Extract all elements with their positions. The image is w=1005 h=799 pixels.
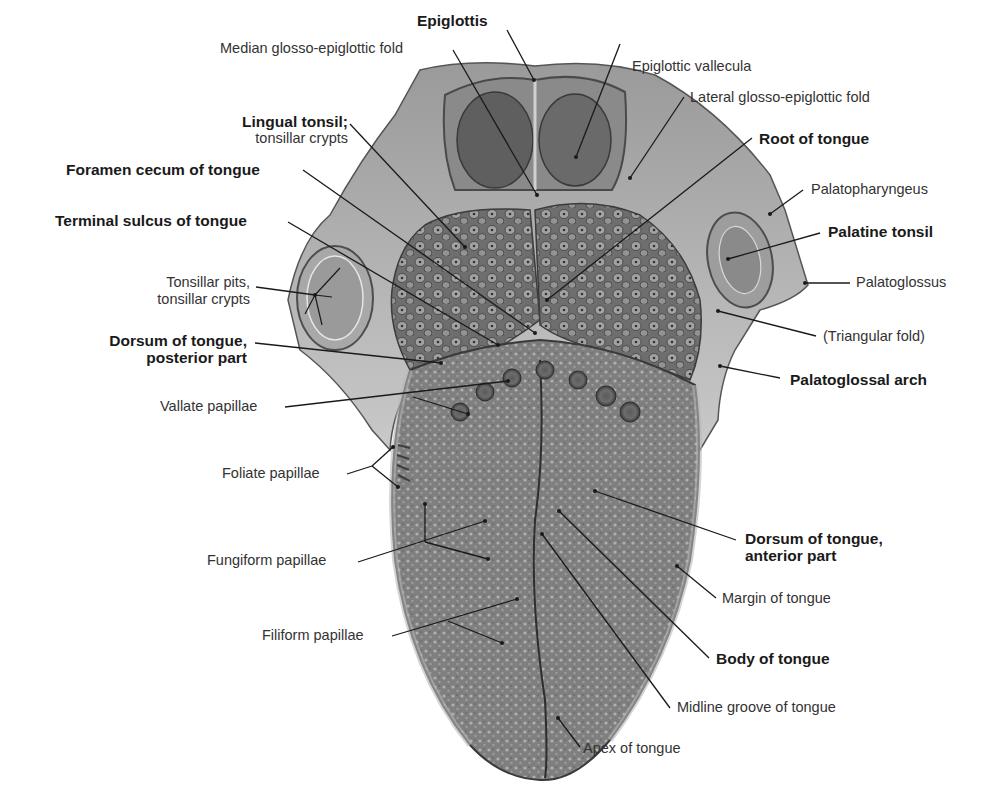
label-foliate-papillae: Foliate papillae	[222, 465, 320, 482]
label-triangular-fold: (Triangular fold)	[823, 328, 925, 345]
label-midline-groove: Midline groove of tongue	[677, 699, 836, 716]
label-apex-of-tongue: Apex of tongue	[583, 740, 681, 757]
label-filiform-papillae: Filiform papillae	[262, 627, 364, 644]
label-dorsum-anterior: Dorsum of tongue, anterior part	[745, 530, 883, 564]
label-vallate-papillae: Vallate papillae	[160, 398, 257, 415]
label-foramen-cecum: Foramen cecum of tongue	[66, 161, 260, 178]
left-vallecula	[457, 92, 533, 188]
label-palatoglossal-arch: Palatoglossal arch	[790, 371, 927, 388]
label-body-of-tongue: Body of tongue	[716, 650, 830, 667]
tongue-anatomy-figure: Epiglottis Median glosso-epiglottic fold…	[0, 0, 1005, 799]
label-margin-of-tongue: Margin of tongue	[722, 590, 831, 607]
label-palatine-tonsil: Palatine tonsil	[828, 223, 933, 240]
label-terminal-sulcus: Terminal sulcus of tongue	[55, 212, 247, 229]
label-epiglottic-vallecula: Epiglottic vallecula	[632, 58, 751, 75]
label-lateral-glosso-epiglottic-fold: Lateral glosso-epiglottic fold	[690, 89, 870, 106]
tongue-illustration	[0, 0, 1005, 799]
label-tonsillar-pits: Tonsillar pits, tonsillar crypts	[120, 274, 250, 308]
label-palatopharyngeus: Palatopharyngeus	[811, 181, 928, 198]
label-dorsum-posterior: Dorsum of tongue, posterior part	[60, 332, 247, 366]
label-epiglottis: Epiglottis	[417, 12, 488, 29]
label-palatoglossus: Palatoglossus	[856, 274, 946, 291]
label-root-of-tongue: Root of tongue	[759, 130, 869, 147]
label-lingual-tonsil: Lingual tonsil; tonsillar crypts	[218, 113, 348, 147]
right-vallecula	[539, 94, 611, 186]
label-median-glosso-epiglottic-fold: Median glosso-epiglottic fold	[220, 40, 403, 57]
label-fungiform-papillae: Fungiform papillae	[207, 552, 326, 569]
